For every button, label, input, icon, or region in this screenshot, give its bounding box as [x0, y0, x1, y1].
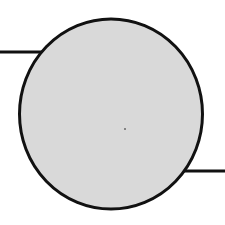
center-mark	[124, 128, 126, 130]
diagram-canvas	[0, 0, 225, 225]
diagram-svg	[0, 0, 225, 225]
gray-circle	[20, 19, 203, 209]
